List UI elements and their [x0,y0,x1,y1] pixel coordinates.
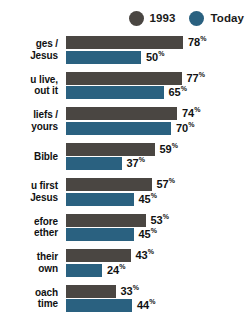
bar-row: 57% [66,178,175,191]
category-label: liefs /yours [0,109,62,132]
circle-swatch-icon [189,11,204,26]
bar-value-label: 59% [160,143,178,156]
bar-value-label: 37% [127,157,145,170]
category-label-line: efore [0,216,58,228]
bar-value-label: 57% [157,178,175,191]
bar-row: 74% [66,107,200,120]
bar-today [66,299,132,312]
category-label-line: time [0,298,58,310]
bar-1993 [66,72,182,85]
bar-group: oachtime33%44% [0,285,252,320]
bar-1993 [66,178,152,191]
bar-value-label: 43% [136,249,154,262]
bar-row: 45% [66,228,157,241]
category-label-line: out it [0,85,58,97]
bar-row: 37% [66,157,145,170]
bar-group: Bible59%37% [0,143,252,179]
circle-swatch-icon [129,11,144,26]
bar-value-label: 45% [139,228,157,241]
bar-value-label: 70% [176,122,194,135]
category-label-line: their [0,251,58,263]
category-label-line: yours [0,121,58,133]
bar-1993 [66,143,155,156]
bar-1993 [66,214,146,227]
bar-value-label: 74% [182,107,200,120]
category-label-line: liefs / [0,109,58,121]
bar-group: u firstJesus57%45% [0,178,252,214]
bar-value-label: 24% [107,264,125,277]
bar-today [66,193,134,206]
bar-row: 33% [66,285,139,298]
category-label-line: Jesus [0,50,58,62]
bar-value-label: 65% [169,86,187,99]
legend-item-1993: 1993 [129,11,176,26]
bar-value-label: 44% [137,299,155,312]
bar-row: 70% [66,122,194,135]
bar-row: 50% [66,51,164,64]
bar-today [66,157,122,170]
bar-row: 43% [66,249,154,262]
bar-1993 [66,285,116,298]
category-label: oachtime [0,287,62,310]
bar-group: liefs /yours74%70% [0,107,252,143]
legend-item-today: Today [189,11,244,26]
bar-group: u live,out it77%65% [0,72,252,108]
bar-today [66,228,134,241]
bar-1993 [66,107,177,120]
category-label: Bible [0,151,62,163]
category-label-line: oach [0,287,58,299]
category-label-line: ges / [0,38,58,50]
bar-value-label: 50% [146,51,164,64]
bar-value-label: 53% [151,214,169,227]
category-label-line: u first [0,180,58,192]
bar-row: 65% [66,86,187,99]
bar-1993 [66,36,183,49]
category-label-line: u live, [0,74,58,86]
category-label: ges /Jesus [0,38,62,61]
bar-chart-plot-area: ges /Jesus78%50%u live,out it77%65%liefs… [0,36,252,320]
bar-group: ges /Jesus78%50% [0,36,252,72]
legend-label: 1993 [150,12,176,24]
category-label: u live,out it [0,74,62,97]
bar-row: 78% [66,36,206,49]
bar-row: 24% [66,264,125,277]
bar-row: 45% [66,193,157,206]
category-label-line: Bible [0,151,58,163]
bar-row: 44% [66,299,155,312]
bar-row: 53% [66,214,169,227]
chart-legend: 1993 Today [0,6,252,30]
bar-group: eforeether53%45% [0,214,252,250]
category-label-line: ether [0,227,58,239]
bar-value-label: 78% [188,36,206,49]
bar-1993 [66,249,131,262]
category-label: theirown [0,251,62,274]
bar-today [66,122,171,135]
bar-row: 59% [66,143,178,156]
bar-today [66,86,164,99]
bar-group: theirown43%24% [0,249,252,285]
category-label-line: own [0,263,58,275]
bar-row: 77% [66,72,205,85]
legend-label: Today [210,12,244,24]
bar-today [66,264,102,277]
bar-value-label: 33% [121,285,139,298]
category-label: u firstJesus [0,180,62,203]
bar-value-label: 45% [139,193,157,206]
category-label: eforeether [0,216,62,239]
bar-value-label: 77% [187,72,205,85]
category-label-line: Jesus [0,192,58,204]
bar-today [66,51,141,64]
